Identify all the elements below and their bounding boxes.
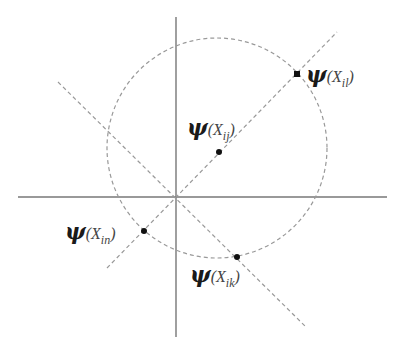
diagram-svg <box>0 0 404 351</box>
label-psi-x-in: ψ(Xin) <box>65 220 116 242</box>
psi-symbol: ψ <box>65 218 86 244</box>
negative-diagonal-line <box>58 82 306 327</box>
label-psi-x-ik: ψ(Xik) <box>190 263 240 285</box>
point-x-ij <box>216 149 222 155</box>
diagram-canvas: ψ(Xil) ψ(Xij) ψ(Xin) ψ(Xik) <box>0 0 404 351</box>
point-x-in <box>141 228 147 234</box>
psi-symbol: ψ <box>306 61 327 87</box>
psi-symbol: ψ <box>187 114 208 140</box>
point-x-ik <box>234 254 240 260</box>
point-x-il <box>294 71 300 77</box>
psi-symbol: ψ <box>190 261 211 287</box>
label-psi-x-il: ψ(Xil) <box>306 63 354 85</box>
label-psi-x-ij: ψ(Xij) <box>187 116 235 138</box>
